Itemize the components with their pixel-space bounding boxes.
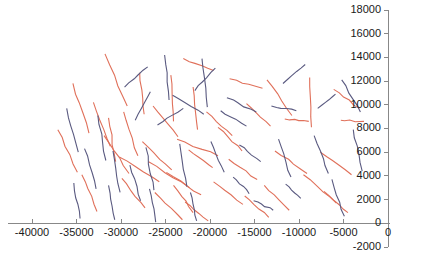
data-segment-blue xyxy=(314,136,328,174)
data-segment-red xyxy=(142,142,171,170)
x-tick-label: -10000 xyxy=(282,226,316,238)
y-tick-label: 16000 xyxy=(350,27,381,39)
data-segment-red xyxy=(166,172,201,195)
data-segment-red xyxy=(174,185,194,212)
data-segment-red xyxy=(267,80,292,116)
x-tick-label: -25000 xyxy=(148,226,182,238)
data-segment-red xyxy=(246,104,270,127)
data-segment-red xyxy=(189,150,213,168)
data-segment-red xyxy=(122,178,145,208)
data-segment-blue xyxy=(283,65,305,84)
data-segment-blue xyxy=(239,145,260,162)
data-segment-blue xyxy=(149,189,155,222)
x-tick-label: -35000 xyxy=(59,226,93,238)
data-segment-blue xyxy=(233,177,249,194)
data-segment-red xyxy=(230,79,263,88)
x-tick-label: -5000 xyxy=(329,226,357,238)
data-segment-red xyxy=(218,127,242,151)
plot-canvas: -40000-35000-30000-25000-20000-15000-100… xyxy=(0,0,427,258)
data-segment-red xyxy=(104,136,129,174)
data-segment-red xyxy=(229,159,257,179)
y-axis-ticks: -200002000400060008000100001200014000160… xyxy=(350,3,388,252)
data-segment-blue xyxy=(286,184,301,198)
data-segment-red xyxy=(155,192,183,219)
y-tick-label: -2000 xyxy=(353,240,381,252)
x-tick-label: -40000 xyxy=(15,226,49,238)
data-segment-red xyxy=(285,119,309,121)
data-segment-red xyxy=(183,59,213,71)
data-segment-red xyxy=(105,54,127,106)
data-segment-blue xyxy=(221,111,247,126)
data-segment-blue xyxy=(109,185,115,219)
y-tick-label: 14000 xyxy=(350,50,381,62)
x-axis-ticks: -40000-35000-30000-25000-20000-15000-100… xyxy=(15,219,391,238)
y-tick-label: 18000 xyxy=(350,3,381,15)
data-segment-red xyxy=(149,162,190,188)
axes-layer xyxy=(8,10,390,247)
data-segment-blue xyxy=(202,59,207,108)
data-segment-blue xyxy=(98,115,106,160)
data-segment-blue xyxy=(195,68,215,91)
data-segment-blue xyxy=(279,139,291,177)
data-segment-red xyxy=(214,182,243,205)
y-tick-label: 0 xyxy=(375,216,381,228)
data-segment-blue xyxy=(173,95,204,114)
data-segment-red xyxy=(185,202,208,221)
data-segment-blue xyxy=(254,201,274,210)
y-tick-label: 10000 xyxy=(350,98,381,110)
y-tick-label: 8000 xyxy=(357,121,381,133)
y-tick-label: 4000 xyxy=(357,169,381,181)
data-segment-blue xyxy=(125,67,148,87)
data-segment-red xyxy=(109,118,116,162)
data-segment-blue xyxy=(211,142,224,173)
y-tick-label: 12000 xyxy=(350,74,381,86)
data-segment-red xyxy=(303,175,336,203)
data-segment-blue xyxy=(165,55,169,100)
scatter-line-plot: -40000-35000-30000-25000-20000-15000-100… xyxy=(0,0,427,258)
data-segment-blue xyxy=(227,98,256,112)
data-segment-red xyxy=(153,106,178,137)
data-segment-blue xyxy=(146,147,154,190)
data-segments-layer xyxy=(58,54,364,222)
data-segment-red xyxy=(264,185,289,210)
data-segment-red xyxy=(310,78,312,128)
y-tick-label: 2000 xyxy=(357,193,381,205)
x-tick-label: -30000 xyxy=(104,226,138,238)
data-segment-blue xyxy=(271,106,296,111)
data-segment-blue xyxy=(332,179,344,216)
data-segment-blue xyxy=(130,165,141,201)
data-segment-red xyxy=(177,139,218,156)
x-tick-label: 0 xyxy=(385,226,391,238)
data-segment-red xyxy=(275,151,307,174)
x-tick-label: -20000 xyxy=(193,226,227,238)
data-segment-blue xyxy=(67,108,79,152)
data-segment-red xyxy=(119,157,159,182)
x-tick-label: -15000 xyxy=(237,226,271,238)
data-segment-blue xyxy=(74,183,80,219)
data-segment-red xyxy=(73,83,89,133)
data-segment-blue xyxy=(180,144,187,187)
y-tick-label: 6000 xyxy=(357,145,381,157)
data-segment-blue xyxy=(318,94,336,108)
